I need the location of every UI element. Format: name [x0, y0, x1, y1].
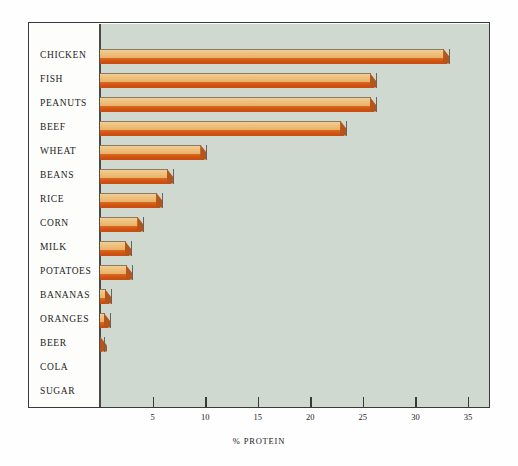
bar-end-edge — [132, 265, 133, 280]
x-axis-title: % PROTEIN — [0, 436, 518, 446]
category-label-peanuts: PEANUTS — [40, 98, 87, 108]
x-tick-10 — [205, 397, 207, 407]
bar-corn — [100, 217, 144, 232]
x-tick-35 — [468, 397, 470, 407]
x-tick-label-20: 20 — [295, 412, 325, 422]
bar-front-face — [100, 58, 447, 64]
bar-potatoes — [100, 265, 133, 280]
bar-end-edge — [162, 193, 163, 208]
bar-end-edge — [110, 313, 111, 328]
bar-front-face — [100, 154, 204, 160]
category-label-beer: BEER — [40, 338, 67, 348]
category-label-beans: BEANS — [40, 170, 74, 180]
bar-beans — [100, 169, 174, 184]
bar-front-face — [100, 226, 141, 232]
bar-fish — [100, 73, 377, 88]
bar-front-face — [100, 178, 171, 184]
x-tick-25 — [363, 397, 365, 407]
bar-top-face — [100, 121, 341, 130]
bar-top-face — [100, 145, 201, 154]
x-tick-label-35: 35 — [453, 412, 483, 422]
bar-rice — [100, 193, 163, 208]
bar-top-face — [100, 169, 168, 178]
bar-top-face — [100, 97, 371, 106]
bar-wheat — [100, 145, 207, 160]
category-label-beef: BEEF — [40, 122, 66, 132]
category-label-corn: CORN — [40, 218, 69, 228]
bar-end-edge — [376, 97, 377, 112]
bar-beer — [100, 337, 105, 352]
category-axis-labels: CHICKENFISHPEANUTSBEEFWHEATBEANSRICECORN… — [28, 24, 99, 408]
bar-milk — [100, 241, 132, 256]
x-tick-label-25: 25 — [348, 412, 378, 422]
chart-page: CHICKENFISHPEANUTSBEEFWHEATBEANSRICECORN… — [0, 0, 518, 466]
bar-oranges — [100, 313, 111, 328]
bar-top-face — [100, 193, 157, 202]
category-label-chicken: CHICKEN — [40, 50, 86, 60]
bar-front-face — [100, 250, 129, 256]
category-label-wheat: WHEAT — [40, 146, 76, 156]
bar-top-face — [100, 265, 127, 274]
bar-chicken — [100, 49, 450, 64]
x-tick-label-5: 5 — [138, 412, 168, 422]
x-tick-label-10: 10 — [190, 412, 220, 422]
bar-top-face — [100, 49, 444, 58]
x-tick-15 — [258, 397, 260, 407]
bar-front-face — [100, 130, 344, 136]
bar-front-face — [100, 106, 374, 112]
bar-front-face — [100, 202, 160, 208]
category-label-milk: MILK — [40, 242, 67, 252]
x-tick-5 — [153, 397, 155, 407]
category-label-fish: FISH — [40, 74, 63, 84]
bar-bananas — [100, 289, 112, 304]
category-label-potatoes: POTATOES — [40, 266, 91, 276]
bar-end-edge — [111, 289, 112, 304]
bar-top-face — [100, 73, 371, 82]
x-tick-label-15: 15 — [243, 412, 273, 422]
bar-series — [100, 24, 489, 408]
category-label-bananas: BANANAS — [40, 290, 90, 300]
bar-top-face — [100, 217, 138, 226]
category-label-cola: COLA — [40, 362, 68, 372]
bar-end-edge — [143, 217, 144, 232]
category-label-rice: RICE — [40, 194, 64, 204]
bar-end-edge — [104, 337, 105, 352]
bar-end-edge — [449, 49, 450, 64]
bar-end-edge — [376, 73, 377, 88]
bar-end-edge — [206, 145, 207, 160]
bar-end-edge — [131, 241, 132, 256]
x-tick-20 — [310, 397, 312, 407]
x-tick-30 — [415, 397, 417, 407]
category-label-sugar: SUGAR — [40, 386, 75, 396]
bar-front-face — [100, 274, 130, 280]
category-label-oranges: ORANGES — [40, 314, 89, 324]
x-tick-label-30: 30 — [400, 412, 430, 422]
bar-top-face — [100, 241, 126, 250]
bar-front-face — [100, 82, 374, 88]
bar-end-edge — [346, 121, 347, 136]
bar-beef — [100, 121, 347, 136]
bar-end-edge — [173, 169, 174, 184]
bar-peanuts — [100, 97, 377, 112]
